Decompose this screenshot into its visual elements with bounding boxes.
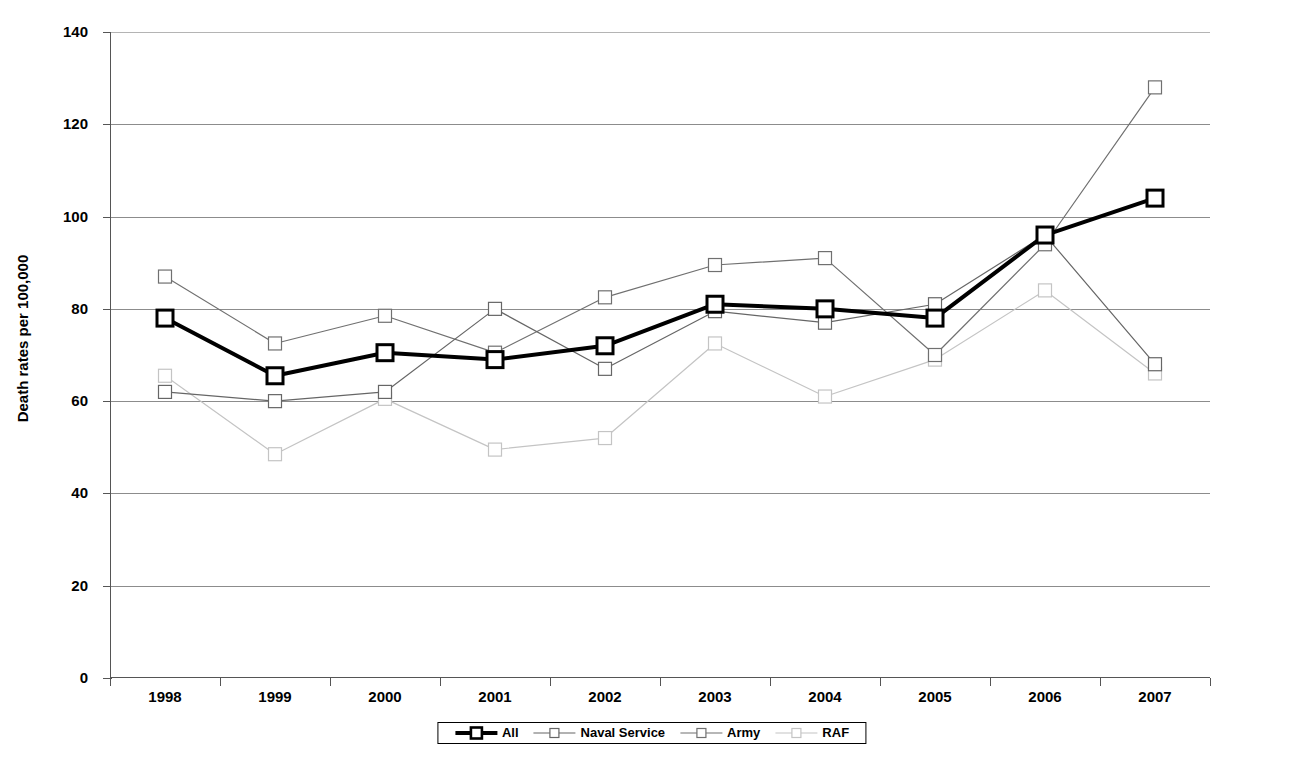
plot-area: [110, 32, 1210, 678]
y-axis-title: Death rates per 100,000: [14, 224, 31, 454]
legend-label: All: [502, 726, 519, 739]
legend-item-raf[interactable]: RAF: [767, 726, 856, 740]
gridline: [111, 217, 1210, 218]
chart-legend: AllNaval ServiceArmyRAF: [437, 722, 866, 744]
x-tick-mark: [440, 678, 441, 686]
gridline: [111, 32, 1210, 33]
x-tick-mark: [110, 678, 111, 686]
legend-swatch-icon: [454, 726, 498, 740]
x-tick-label: 2003: [660, 688, 770, 705]
x-tick-label: 2006: [990, 688, 1100, 705]
x-tick-label: 1999: [220, 688, 330, 705]
gridline: [111, 401, 1210, 402]
x-tick-label: 1998: [110, 688, 220, 705]
legend-swatch-icon: [533, 726, 577, 740]
x-tick-mark: [660, 678, 661, 686]
x-tick-label: 2004: [770, 688, 880, 705]
x-tick-mark: [770, 678, 771, 686]
y-tick-label: 20: [8, 578, 88, 593]
x-tick-label: 2007: [1100, 688, 1210, 705]
gridline: [111, 124, 1210, 125]
legend-item-all[interactable]: All: [447, 726, 526, 740]
x-tick-label: 2000: [330, 688, 440, 705]
x-tick-label: 2002: [550, 688, 660, 705]
gridline: [111, 309, 1210, 310]
x-tick-mark: [220, 678, 221, 686]
x-tick-mark: [990, 678, 991, 686]
legend-swatch-icon: [679, 726, 723, 740]
legend-label: Army: [727, 726, 760, 739]
y-tick-label: 140: [8, 24, 88, 39]
x-tick-label: 2005: [880, 688, 990, 705]
y-tick-label: 60: [8, 393, 88, 408]
gridline: [111, 586, 1210, 587]
x-tick-label: 2001: [440, 688, 550, 705]
y-tick-label: 0: [8, 670, 88, 685]
x-tick-mark: [1100, 678, 1101, 686]
x-tick-mark: [1210, 678, 1211, 686]
legend-item-naval-service[interactable]: Naval Service: [526, 726, 673, 740]
legend-swatch-icon: [774, 726, 818, 740]
y-tick-label: 100: [8, 209, 88, 224]
line-chart: Death rates per 100,000 1401201008060402…: [0, 0, 1303, 759]
chart-title: [0, 0, 1303, 3]
legend-label: Naval Service: [581, 726, 666, 739]
x-tick-mark: [550, 678, 551, 686]
gridline: [111, 493, 1210, 494]
x-tick-mark: [330, 678, 331, 686]
x-tick-mark: [880, 678, 881, 686]
legend-item-army[interactable]: Army: [672, 726, 767, 740]
y-tick-label: 40: [8, 485, 88, 500]
y-tick-label: 120: [8, 116, 88, 131]
y-tick-label: 80: [8, 301, 88, 316]
legend-label: RAF: [822, 726, 849, 739]
